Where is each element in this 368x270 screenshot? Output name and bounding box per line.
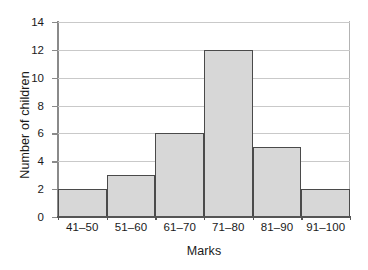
- x-tick-mark: [58, 216, 59, 220]
- x-tick-mark: [350, 216, 351, 220]
- histogram-figure: Number of children 02468101214 41–5051–6…: [0, 0, 368, 270]
- x-tick-label: 51–60: [107, 221, 156, 233]
- histogram-bar: [301, 189, 350, 217]
- histogram-bar: [155, 133, 204, 217]
- x-tick-mark: [155, 216, 156, 220]
- x-tick-mark: [301, 216, 302, 220]
- histogram-bar: [58, 189, 107, 217]
- x-tick-mark: [204, 216, 205, 220]
- x-tick-mark: [253, 216, 254, 220]
- y-tick-label: 10: [18, 72, 44, 84]
- y-tick-label: 6: [18, 127, 44, 139]
- y-tick-label: 2: [18, 183, 44, 195]
- y-tick-label: 8: [18, 100, 44, 112]
- plot-area: [58, 22, 350, 217]
- x-tick-label: 91–100: [301, 221, 350, 233]
- y-tick-label: 4: [18, 155, 44, 167]
- y-tick-label: 0: [18, 211, 44, 223]
- x-tick-mark: [107, 216, 108, 220]
- x-tick-label: 71–80: [204, 221, 253, 233]
- x-tick-label: 61–70: [155, 221, 204, 233]
- x-axis-title: Marks: [58, 244, 350, 258]
- histogram-bar: [253, 147, 302, 217]
- y-tick-label: 14: [18, 16, 44, 28]
- histogram-bar: [204, 50, 253, 217]
- histogram-bar: [107, 175, 156, 217]
- y-tick-label: 12: [18, 44, 44, 56]
- x-tick-label: 41–50: [58, 221, 107, 233]
- x-tick-label: 81–90: [253, 221, 302, 233]
